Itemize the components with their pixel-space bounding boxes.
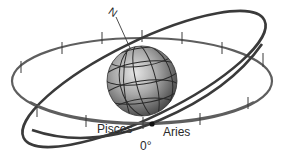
aries-label: Aries — [163, 126, 190, 138]
zero-degree-label: 0° — [140, 140, 151, 152]
pisces-label: Pisces — [97, 123, 132, 135]
vernal-equinox-point — [149, 121, 154, 126]
north-axis — [116, 17, 130, 48]
